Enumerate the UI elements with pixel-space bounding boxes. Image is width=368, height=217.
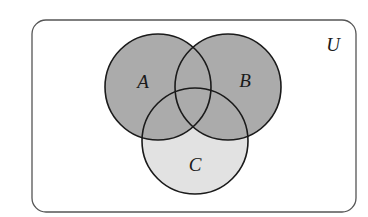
set-c-label: C [189, 154, 202, 175]
set-b-label: B [239, 70, 251, 91]
universe-label: U [326, 34, 341, 55]
set-a-label: A [135, 71, 149, 92]
venn-diagram: A B C U [0, 0, 368, 217]
